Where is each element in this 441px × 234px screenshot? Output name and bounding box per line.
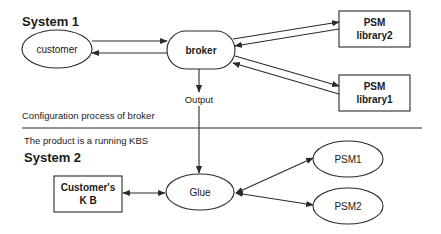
broker-node: broker — [167, 31, 235, 69]
psm-library2-line1: PSM — [364, 17, 386, 28]
edge-library2-to-broker — [235, 29, 339, 46]
edge-broker-to-library2 — [233, 22, 339, 39]
customers-kb-line1: Customer's — [61, 182, 116, 193]
customers-kb-node: Customer's K B — [54, 176, 122, 212]
system1-title: System 1 — [22, 14, 79, 29]
psm-library1-line2: library1 — [356, 94, 393, 105]
output-label: Output — [185, 94, 214, 105]
psm2-node: PSM2 — [313, 188, 383, 224]
psm-library2-node: PSM library2 — [339, 11, 410, 47]
psm-library1-line1: PSM — [364, 81, 386, 92]
system1-caption: Configuration process of broker — [22, 110, 155, 121]
edge-broker-to-library1 — [235, 56, 339, 86]
customer-node: customer — [22, 30, 92, 68]
psm1-node: PSM1 — [313, 141, 383, 177]
edge-glue-psm1 — [236, 158, 313, 193]
system2-title: System 2 — [24, 150, 81, 165]
customer-label: customer — [36, 44, 78, 55]
edge-library1-to-broker — [233, 63, 339, 94]
psm1-label: PSM1 — [334, 154, 362, 165]
diagram-canvas: System 1 customer broker PSM library2 PS… — [0, 0, 441, 234]
psm-library2-line2: library2 — [356, 30, 393, 41]
psm2-label: PSM2 — [334, 201, 362, 212]
glue-node: Glue — [166, 174, 234, 210]
broker-label: broker — [185, 45, 216, 56]
psm-library1-node: PSM library1 — [339, 75, 410, 111]
customers-kb-line2: K B — [79, 195, 96, 206]
system2-caption: The product is a running KBS — [24, 135, 148, 146]
glue-label: Glue — [189, 187, 211, 198]
edge-glue-psm2 — [236, 193, 313, 205]
